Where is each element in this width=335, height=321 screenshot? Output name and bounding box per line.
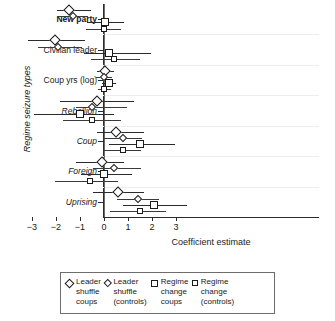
- estimate-marker: [109, 164, 117, 172]
- estimate-marker: [150, 201, 158, 209]
- legend: LeadershufflecoupsLeadershuffle(controls…: [60, 272, 275, 314]
- category-separator: [103, 187, 319, 188]
- x-axis-tick-label: 0: [94, 222, 114, 232]
- category-separator: [103, 34, 319, 35]
- x-axis-line: [103, 217, 319, 218]
- x-axis-tick: [176, 217, 177, 221]
- x-axis-tick: [32, 217, 33, 221]
- x-axis-tick-label: −2: [46, 222, 66, 232]
- x-axis-tick: [152, 217, 153, 221]
- confidence-interval-line: [76, 107, 126, 108]
- estimate-marker: [119, 134, 127, 142]
- y-axis-category-label: Uprising: [66, 197, 97, 207]
- plot-area: [103, 4, 319, 217]
- x-axis-tick: [128, 217, 129, 221]
- zero-reference-line: [104, 4, 105, 217]
- estimate-marker: [136, 140, 144, 148]
- legend-item: Regimechangecoups: [149, 277, 191, 307]
- legend-item: Leadershuffle(controls): [103, 277, 149, 307]
- legend-item: Regimechange(controls): [190, 277, 236, 307]
- legend-label: Regimechangecoups: [161, 277, 189, 307]
- y-axis-title: Regime seizure types: [22, 24, 32, 194]
- category-separator: [103, 126, 319, 127]
- estimate-marker: [111, 56, 117, 62]
- x-axis-title: Coefficient estimate: [103, 237, 319, 247]
- x-axis-tick-label: 2: [142, 222, 162, 232]
- category-separator: [103, 156, 319, 157]
- confidence-interval-line: [34, 114, 113, 115]
- estimate-marker: [89, 117, 95, 123]
- confidence-interval-line: [84, 53, 151, 54]
- legend-label: Regimechange(controls): [201, 277, 234, 307]
- diamond-marker-icon: [66, 280, 73, 287]
- y-axis-category-label: Coup yrs (log): [44, 75, 97, 85]
- legend-label: Leadershufflecoups: [76, 277, 101, 307]
- estimate-marker: [76, 110, 84, 118]
- x-axis-tick: [80, 217, 81, 221]
- estimate-marker: [113, 187, 124, 198]
- legend-item: Leadershufflecoups: [64, 277, 103, 307]
- diamond-marker-icon: [105, 280, 111, 286]
- coefficient-plot-figure: Regime seizure types New partyCivilian l…: [0, 0, 335, 321]
- x-axis-tick-label: −3: [22, 222, 42, 232]
- legend-label: Leadershuffle(controls): [113, 277, 146, 307]
- y-axis-category-label: Coup: [77, 136, 97, 146]
- estimate-marker: [87, 178, 93, 184]
- square-marker-icon: [192, 280, 198, 286]
- estimate-marker: [133, 194, 141, 202]
- x-axis-tick: [104, 217, 105, 221]
- x-axis-tick-label: 1: [118, 222, 138, 232]
- estimate-marker: [101, 26, 107, 32]
- estimate-marker: [120, 147, 126, 153]
- category-separator: [103, 65, 319, 66]
- estimate-marker: [100, 170, 108, 178]
- x-axis-tick-label: 3: [166, 222, 186, 232]
- estimate-marker: [137, 208, 143, 214]
- x-axis-tick: [56, 217, 57, 221]
- square-marker-icon: [151, 280, 158, 287]
- category-separator: [103, 95, 319, 96]
- x-axis-tick-label: −1: [70, 222, 90, 232]
- estimate-marker: [101, 86, 107, 92]
- estimate-marker: [96, 156, 107, 167]
